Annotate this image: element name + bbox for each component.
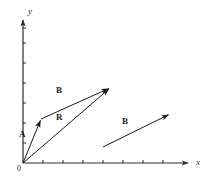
vector-b-translated <box>103 115 169 147</box>
vector-figure: y x 0 A B R B <box>0 0 208 178</box>
vector-diagram-canvas <box>0 0 208 178</box>
y-axis-label: y <box>28 7 32 16</box>
vector-r-label: R <box>56 113 63 122</box>
vector-b-head-to-tail <box>41 89 109 119</box>
vector-b-translated-label: B <box>122 117 128 126</box>
vector-arrow-group <box>23 89 169 163</box>
vector-a <box>23 120 40 163</box>
vector-b-head-to-tail-label: B <box>56 86 62 95</box>
vector-a-label: A <box>19 130 26 139</box>
x-axis-label: x <box>196 158 200 167</box>
origin-label: 0 <box>17 165 21 173</box>
vector-r-resultant <box>23 89 109 163</box>
